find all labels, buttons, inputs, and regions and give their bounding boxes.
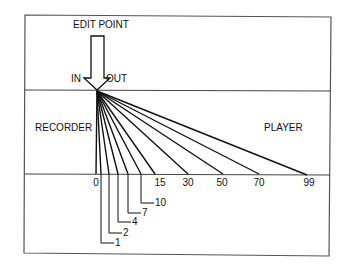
leader-label-1: 1 bbox=[115, 238, 121, 248]
tick-label-15: 15 bbox=[154, 178, 165, 188]
outer-frame bbox=[24, 15, 331, 256]
fan-line-70 bbox=[97, 91, 259, 174]
out-label: OUT bbox=[106, 74, 127, 84]
edit-point-title: EDIT POINT bbox=[73, 20, 129, 30]
tick-label-0: 0 bbox=[93, 178, 99, 188]
leader-label-7: 7 bbox=[142, 208, 148, 218]
in-label: IN bbox=[71, 74, 81, 84]
fan-line-7 bbox=[97, 91, 128, 174]
leader-2 bbox=[109, 174, 122, 233]
fan-line-0 bbox=[96, 91, 97, 174]
leader-label-10: 10 bbox=[155, 198, 166, 208]
fan-lines bbox=[96, 91, 307, 175]
tick-label-99: 99 bbox=[303, 178, 314, 188]
leader-label-4: 4 bbox=[132, 217, 138, 227]
leader-4 bbox=[118, 174, 131, 222]
baseline bbox=[25, 174, 330, 175]
top-divider bbox=[25, 90, 330, 91]
player-label: PLAYER bbox=[264, 123, 303, 133]
tick-label-50: 50 bbox=[216, 178, 227, 188]
fan-line-30 bbox=[97, 91, 188, 174]
leader-label-2: 2 bbox=[123, 228, 129, 238]
recorder-label: RECORDER bbox=[35, 123, 92, 133]
tick-label-30: 30 bbox=[182, 178, 193, 188]
fan-line-99 bbox=[97, 91, 307, 175]
fan-line-50 bbox=[97, 91, 223, 174]
edit-point-diagram bbox=[0, 0, 347, 269]
tick-label-70: 70 bbox=[253, 178, 264, 188]
fan-line-15 bbox=[97, 91, 155, 174]
leader-10 bbox=[141, 174, 154, 203]
leader-7 bbox=[128, 174, 141, 213]
